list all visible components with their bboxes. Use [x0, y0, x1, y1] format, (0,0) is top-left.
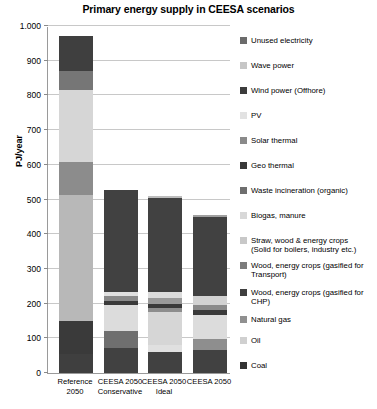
bar-segment[interactable]	[193, 296, 227, 304]
bar-segment[interactable]	[59, 162, 93, 196]
bar-segment[interactable]	[193, 315, 227, 339]
legend-label: Oil	[251, 336, 261, 345]
bar-segment[interactable]	[148, 198, 182, 292]
y-axis-tick	[44, 337, 48, 338]
legend-label: Natural gas	[251, 315, 291, 324]
legend-item[interactable]: Natural gas	[240, 315, 291, 324]
y-axis-tick	[44, 164, 48, 165]
bar-segment[interactable]	[193, 217, 227, 296]
legend-item[interactable]: Wave power	[240, 61, 294, 70]
y-axis-tick-label: 100	[1, 334, 41, 343]
legend-swatch-icon	[240, 316, 247, 323]
legend-swatch-icon	[240, 87, 247, 94]
plot-area: PJ/year	[47, 27, 230, 374]
legend-label: Waste incineration (organic)	[251, 186, 348, 195]
legend-swatch-icon	[240, 137, 247, 144]
legend-label: PV	[251, 111, 261, 120]
y-axis-tick	[44, 268, 48, 269]
legend-swatch-icon	[240, 112, 247, 119]
legend-label: Wood, energy crops (gasified for Transpo…	[251, 261, 364, 280]
y-axis-tick	[44, 94, 48, 95]
legend-swatch-icon	[240, 162, 247, 169]
legend-label: Biogas, manure	[251, 211, 306, 220]
legend-item[interactable]: Waste incineration (organic)	[240, 186, 348, 195]
y-axis-tick	[44, 25, 48, 26]
legend-swatch-icon	[240, 237, 247, 244]
legend-item[interactable]: Solar thermal	[240, 136, 297, 145]
bar-column[interactable]	[148, 196, 182, 373]
legend-swatch-icon	[240, 187, 247, 194]
bar-segment[interactable]	[148, 312, 182, 345]
y-axis-tick-label: 200	[1, 300, 41, 309]
y-axis-tick	[44, 199, 48, 200]
legend-swatch-icon	[240, 62, 247, 69]
bar-column[interactable]	[59, 36, 93, 373]
y-axis-tick-label: 400	[1, 230, 41, 239]
y-axis-tick	[44, 372, 48, 373]
legend-label: Straw, wood & energy crops (Solid for bo…	[251, 236, 356, 255]
legend-swatch-icon	[240, 289, 247, 296]
y-axis-tick	[44, 60, 48, 61]
legend-item[interactable]: Geo thermal	[240, 161, 294, 170]
bar-segment[interactable]	[59, 90, 93, 162]
y-axis-tick	[44, 303, 48, 304]
legend-item[interactable]: Unused electricity	[240, 36, 313, 45]
bar-segment[interactable]	[193, 339, 227, 350]
bar-segment[interactable]	[59, 354, 93, 373]
bar-segment[interactable]	[104, 348, 138, 373]
legend-item[interactable]: Wood, energy crops (gasified for CHP)	[240, 288, 364, 307]
chart-figure: Primary energy supply in CEESA scenarios…	[0, 0, 377, 409]
bar-segment[interactable]	[59, 321, 93, 354]
y-axis-tick-label: 0	[1, 369, 41, 378]
x-axis-label-line: CEESA 2050	[181, 377, 237, 387]
bar-segment[interactable]	[59, 195, 93, 321]
y-axis-tick-label: 700	[1, 126, 41, 135]
legend-item[interactable]: Coal	[240, 361, 267, 370]
x-axis-label-line: Ideal	[136, 387, 192, 397]
legend-item[interactable]: Wood, energy crops (gasified for Transpo…	[240, 261, 364, 280]
legend-swatch-icon	[240, 212, 247, 219]
bar-segment[interactable]	[59, 71, 93, 90]
y-axis-tick-label: 300	[1, 265, 41, 274]
legend-item[interactable]: Straw, wood & energy crops (Solid for bo…	[240, 236, 356, 255]
y-axis-tick-label: 600	[1, 161, 41, 170]
legend-swatch-icon	[240, 362, 247, 369]
bar-column[interactable]	[193, 215, 227, 373]
legend-item[interactable]: Wind power (Offhore)	[240, 86, 325, 95]
bar-segment[interactable]	[148, 345, 182, 352]
bar-segment[interactable]	[59, 36, 93, 70]
legend-item[interactable]: Biogas, manure	[240, 211, 306, 220]
legend-swatch-icon	[240, 337, 247, 344]
bar-segment[interactable]	[104, 305, 138, 332]
y-axis-tick-label: 500	[1, 196, 41, 205]
legend-item[interactable]: Oil	[240, 336, 261, 345]
legend-label: Unused electricity	[251, 36, 313, 45]
bar-segment[interactable]	[104, 190, 138, 291]
legend-item[interactable]: PV	[240, 111, 261, 120]
x-axis-tick-label: CEESA 2050	[181, 377, 237, 387]
legend-label: Wind power (Offhore)	[251, 86, 325, 95]
legend-swatch-icon	[240, 262, 247, 269]
y-axis-tick	[44, 233, 48, 234]
legend-swatch-icon	[240, 37, 247, 44]
legend-label: Coal	[251, 361, 267, 370]
legend-label: Wave power	[251, 61, 294, 70]
y-axis-tick	[44, 129, 48, 130]
legend-label: Wood, energy crops (gasified for CHP)	[251, 288, 364, 307]
legend-label: Geo thermal	[251, 161, 294, 170]
chart-title: Primary energy supply in CEESA scenarios	[0, 3, 377, 15]
legend-label: Solar thermal	[251, 136, 297, 145]
y-axis-tick-label: 800	[1, 91, 41, 100]
bar-segment[interactable]	[104, 331, 138, 348]
gridline	[48, 25, 230, 26]
y-axis-tick-label: 1.000	[1, 22, 41, 31]
bar-segment[interactable]	[193, 350, 227, 373]
y-axis-tick-label: 900	[1, 57, 41, 66]
bar-column[interactable]	[104, 190, 138, 373]
bar-segment[interactable]	[148, 352, 182, 373]
